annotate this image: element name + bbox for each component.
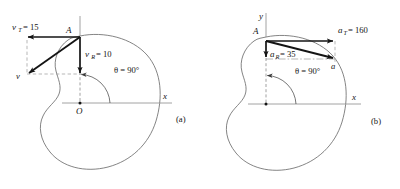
panel-a: v T = 15 v R = 10 v A O x θ = 90° (a) xyxy=(12,16,186,169)
label-ar-subscript: R xyxy=(275,53,280,60)
label-vt-subscript: T xyxy=(18,26,22,33)
label-vr-value: = 10 xyxy=(96,49,112,59)
label-a-resultant-b: a xyxy=(331,61,335,71)
x-axis-label-b: x xyxy=(351,92,356,102)
point-label-b: A xyxy=(252,26,259,36)
label-v-resultant-a: v xyxy=(16,71,20,81)
label-at-b: a T = 160 xyxy=(338,25,368,36)
origin-dot-a xyxy=(79,102,82,105)
label-ar-b: a R = 35 xyxy=(270,49,296,60)
angle-label-a: θ = 90° xyxy=(114,65,140,75)
label-ar-symbol: a xyxy=(270,49,275,59)
label-vt-value: = 15 xyxy=(23,22,39,32)
label-vt-symbol: v xyxy=(12,22,16,32)
label-vt-a: v T = 15 xyxy=(12,22,39,33)
panel-caption-b: (b) xyxy=(371,116,381,126)
label-at-subscript: T xyxy=(344,29,348,36)
label-at-value: = 160 xyxy=(348,25,368,35)
label-ar-value: = 35 xyxy=(280,49,296,59)
theta-arc-a xyxy=(81,75,110,104)
panel-caption-a: (a) xyxy=(176,114,186,124)
panel-b: a T = 160 a R = 35 a A y x θ = 90° (b) xyxy=(226,11,381,170)
y-axis-label-b: y xyxy=(258,11,263,21)
origin-label-a: O xyxy=(76,106,83,116)
theta-arc-b xyxy=(267,76,296,105)
label-vr-a: v R = 10 xyxy=(85,49,112,60)
origin-dot-b xyxy=(265,103,268,106)
vector-v-resultant-a xyxy=(29,37,80,73)
x-axis-label-a: x xyxy=(162,91,167,101)
label-vr-symbol: v xyxy=(85,49,89,59)
figure-root: v T = 15 v R = 10 v A O x θ = 90° (a) xyxy=(0,0,400,189)
angle-label-b: θ = 90° xyxy=(295,66,321,76)
cam-kinematics-figure: v T = 15 v R = 10 v A O x θ = 90° (a) xyxy=(0,0,400,189)
point-label-a: A xyxy=(65,25,72,35)
label-vr-subscript: R xyxy=(90,53,95,60)
label-at-symbol: a xyxy=(338,25,343,35)
